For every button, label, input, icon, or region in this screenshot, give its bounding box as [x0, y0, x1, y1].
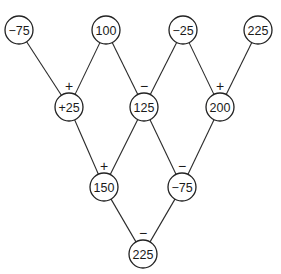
node-label: −75: [171, 181, 192, 195]
node-r1c3: −25: [169, 16, 197, 44]
operator-minus-r4c1: −: [139, 225, 147, 241]
edge-r3c2-r4c1: [150, 199, 175, 242]
node-r1c4: 225: [244, 16, 272, 44]
edge-r1c1-r2c1: [27, 42, 62, 96]
edge-r1c2-r2c2: [112, 43, 138, 95]
edge-r1c3-r2c3: [189, 43, 214, 95]
edge-r2c2-r3c2: [150, 120, 176, 175]
edge-r2c3-r3c2: [188, 120, 214, 175]
node-label: 225: [248, 24, 269, 38]
edge-r3c1-r4c1: [111, 199, 136, 242]
node-label: 225: [133, 248, 154, 262]
node-label: 200: [210, 101, 231, 115]
operator-minus-r2c2: −: [140, 78, 148, 94]
node-r2c2: 125: [130, 93, 158, 121]
node-label: −75: [8, 24, 29, 38]
node-r2c1: +25: [55, 93, 83, 121]
node-label: 125: [134, 101, 155, 115]
operator-plus-r3c1: +: [100, 158, 108, 174]
node-r1c2: 100: [92, 16, 120, 44]
node-label: 150: [94, 181, 115, 195]
node-r3c1: 150: [90, 173, 118, 201]
node-r2c3: 200: [206, 93, 234, 121]
edge-r1c3-r2c2: [150, 42, 176, 94]
edge-r2c1-r3c1: [75, 120, 99, 174]
operator-minus-r3c2: −: [178, 158, 186, 174]
edge-r1c4-r2c3: [226, 43, 252, 95]
operator-plus-r2c3: +: [216, 78, 224, 94]
node-r4c1: 225: [129, 240, 157, 268]
edge-r1c2-r2c1: [75, 43, 100, 95]
number-pyramid-diagram: +−++−− −75100−25225+25125200150−75225: [0, 0, 281, 274]
node-label: −25: [172, 24, 193, 38]
node-r3c2: −75: [168, 173, 196, 201]
operator-plus-r2c1: +: [65, 78, 73, 94]
node-r1c1: −75: [5, 16, 33, 44]
edge-r2c2-r3c1: [110, 120, 137, 175]
node-label: 100: [96, 24, 117, 38]
edges-layer: [27, 42, 252, 242]
node-label: +25: [58, 101, 79, 115]
